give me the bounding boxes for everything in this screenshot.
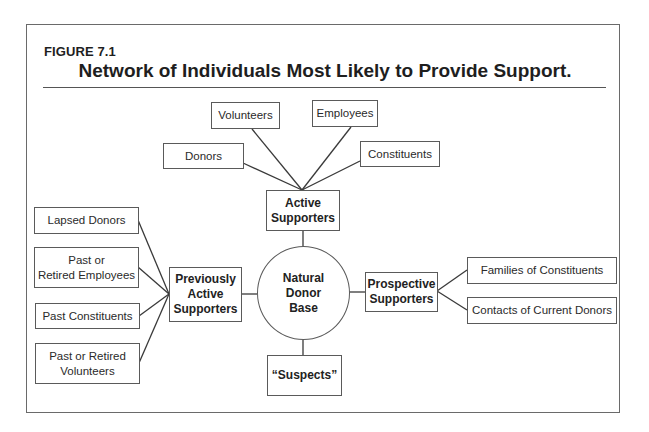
node-suspects: “Suspects” — [267, 355, 342, 396]
node-constituents: Constituents — [360, 141, 440, 167]
link-employees — [302, 127, 351, 190]
node-past-retired-employees: Past or Retired Employees — [34, 247, 139, 288]
node-natural-donor-base: Natural Donor Base — [257, 246, 350, 340]
node-label: “Suspects” — [272, 368, 337, 383]
node-volunteers: Volunteers — [211, 102, 280, 129]
node-label: Past Constituents — [42, 309, 132, 324]
link-donors — [243, 163, 302, 190]
link-lapsed-donors — [138, 220, 169, 294]
node-label: Donors — [185, 149, 222, 164]
node-label: Lapsed Donors — [48, 213, 126, 228]
node-label: Previously Active Supporters — [173, 272, 237, 317]
link-constituents — [302, 161, 360, 190]
node-label: Past or Retired Employees — [38, 253, 135, 283]
node-past-constituents: Past Constituents — [35, 303, 140, 329]
node-previously-active-supporters: Previously Active Supporters — [169, 267, 242, 322]
node-lapsed-donors: Lapsed Donors — [34, 207, 139, 234]
node-label: Constituents — [368, 147, 432, 162]
node-contacts-of-current-donors: Contacts of Current Donors — [467, 297, 617, 324]
link-volunteers — [252, 129, 302, 190]
node-families-of-constituents: Families of Constituents — [467, 257, 617, 284]
node-prospective-supporters: Prospective Supporters — [365, 272, 438, 312]
node-label: Volunteers — [218, 108, 272, 123]
node-label: Families of Constituents — [481, 263, 604, 278]
node-label: Employees — [317, 106, 374, 121]
link-families — [437, 270, 467, 291]
node-active-supporters: Active Supporters — [266, 190, 340, 231]
node-label: Past or Retired Volunteers — [49, 349, 126, 379]
link-past-employees — [138, 267, 169, 294]
node-label: Active Supporters — [271, 196, 335, 226]
node-past-retired-volunteers: Past or Retired Volunteers — [35, 343, 140, 384]
node-employees: Employees — [312, 100, 378, 127]
node-label: Natural Donor Base — [283, 271, 324, 316]
node-label: Contacts of Current Donors — [472, 303, 612, 318]
node-donors: Donors — [163, 143, 244, 169]
node-label: Prospective Supporters — [367, 277, 435, 307]
link-contacts — [437, 291, 467, 310]
